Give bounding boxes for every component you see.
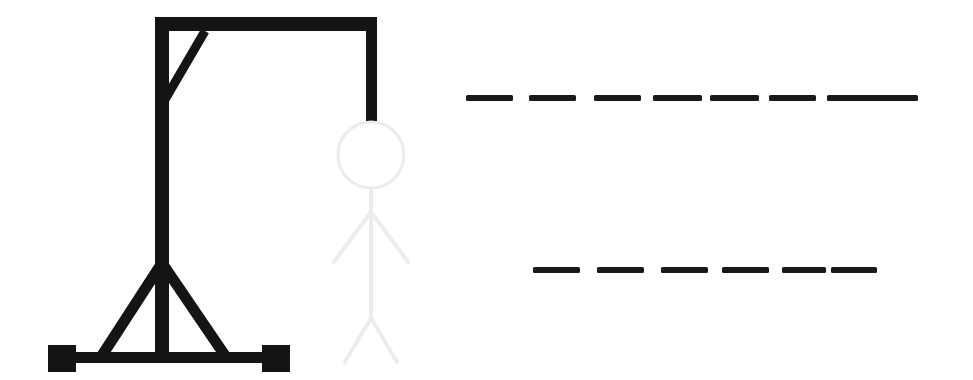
letter-blank[interactable] [466, 95, 513, 101]
letter-blank[interactable] [722, 267, 769, 273]
letter-blank[interactable] [594, 95, 641, 101]
top-beam [155, 17, 375, 31]
letter-blank[interactable] [710, 95, 759, 101]
canvas-background [0, 0, 973, 380]
letter-blank[interactable] [769, 95, 816, 101]
letter-blank[interactable] [831, 267, 877, 273]
right-foot [262, 345, 290, 372]
letter-blank[interactable] [529, 95, 576, 101]
hangman-game: Hangman [0, 0, 973, 380]
rope [366, 17, 377, 121]
letter-blank[interactable] [533, 267, 580, 273]
base-beam [62, 352, 276, 363]
letter-blank[interactable] [872, 95, 918, 101]
letter-blank[interactable] [597, 267, 644, 273]
letter-blank[interactable] [653, 95, 702, 101]
left-foot [48, 345, 76, 372]
vertical-post [155, 17, 169, 363]
letter-blank[interactable] [827, 95, 874, 101]
answer-row-1 [466, 95, 918, 101]
hangman-canvas [0, 0, 973, 380]
letter-blank[interactable] [782, 267, 826, 273]
letter-blank[interactable] [661, 267, 708, 273]
